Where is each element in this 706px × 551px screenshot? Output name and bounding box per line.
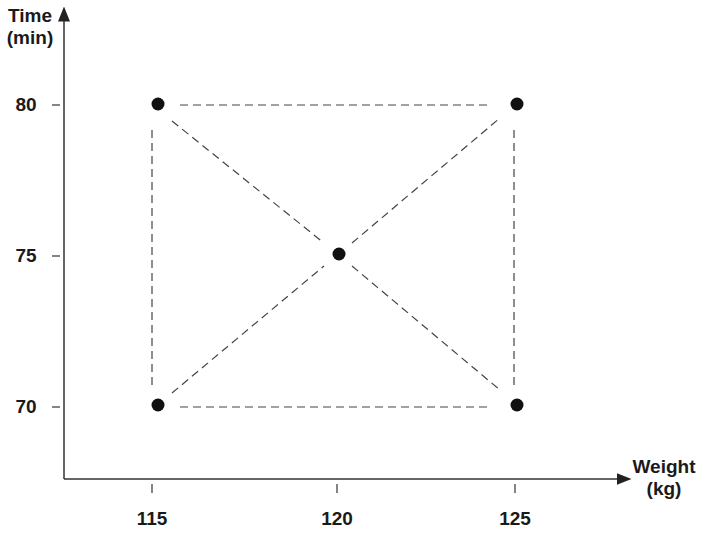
design-space-chart (0, 0, 706, 551)
point-115-80 (152, 98, 165, 111)
y-tick-label: 75 (6, 245, 46, 267)
point-120-75 (333, 248, 346, 261)
x-tick-label: 125 (485, 508, 545, 530)
x-tick-label: 120 (307, 508, 367, 530)
x-tick-label: 115 (122, 508, 182, 530)
point-125-80 (511, 98, 524, 111)
y-axis-label-line2: (min) (2, 27, 58, 49)
point-115-70 (152, 399, 165, 412)
x-axis-label: Weight (kg) (626, 456, 702, 500)
data-points (152, 98, 524, 412)
x-axis-label-line1: Weight (626, 456, 702, 478)
point-125-70 (511, 399, 524, 412)
y-tick-label: 80 (6, 94, 46, 116)
y-tick-label: 70 (6, 396, 46, 418)
y-axis-label-line1: Time (2, 5, 58, 27)
x-axis-label-line2: (kg) (626, 478, 702, 500)
y-axis-label: Time (min) (2, 5, 58, 49)
tick-marks (52, 105, 515, 493)
